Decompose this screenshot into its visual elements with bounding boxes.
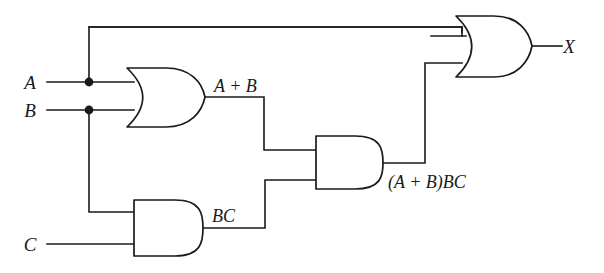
and-gate-mid <box>316 136 383 189</box>
and-gate-mid-output-label: (A + B)BC <box>388 172 467 193</box>
and-gate-bc <box>134 200 203 256</box>
logic-circuit-diagram: A B C A + B BC (A + B)BC X <box>0 0 604 273</box>
circuit-canvas: A B C A + B BC (A + B)BC X <box>0 0 604 273</box>
junction-dot-b <box>85 106 94 115</box>
input-label-c: C <box>24 234 37 255</box>
junction-dot-a <box>85 78 94 87</box>
or-gate-out <box>456 16 532 77</box>
wire-and-mid-to-or-out <box>383 63 462 163</box>
or-gate-out-body <box>456 16 532 77</box>
or-gate-ab-output-label: A + B <box>213 76 257 96</box>
input-label-a: A <box>22 72 36 93</box>
output-label-x: X <box>562 36 576 57</box>
input-label-b: B <box>24 100 36 121</box>
or-gate-ab <box>127 68 205 127</box>
and-gate-mid-body <box>316 136 383 189</box>
and-gate-bc-body <box>134 200 203 256</box>
and-gate-bc-output-label: BC <box>212 206 236 226</box>
or-gate-ab-body <box>127 68 205 127</box>
wire-or1-to-and-mid <box>205 97 320 150</box>
